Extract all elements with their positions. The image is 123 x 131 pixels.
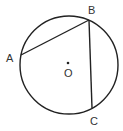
center-dot [67, 62, 70, 65]
geometry-diagram: O A B C [0, 0, 123, 131]
label-a: A [6, 52, 14, 64]
chord-bc [89, 20, 92, 108]
label-b: B [88, 4, 95, 16]
chord-ab [21, 20, 89, 55]
label-c: C [90, 115, 98, 127]
label-o: O [64, 67, 73, 79]
